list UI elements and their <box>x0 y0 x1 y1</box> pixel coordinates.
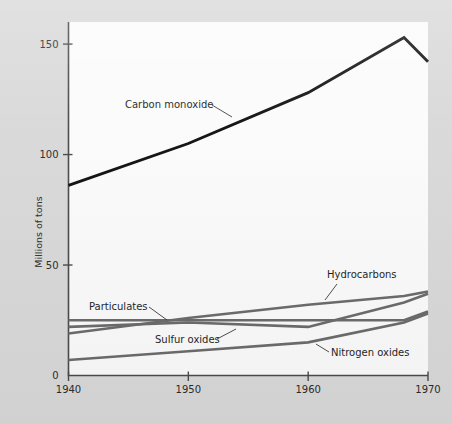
y-tick-label: 0 <box>52 370 58 381</box>
chart-page: 1940195019601970 050100150 Carbon monoxi… <box>0 0 452 424</box>
series-annotation-hydrocarbons: Hydrocarbons <box>327 269 397 280</box>
axis-lines <box>69 22 429 376</box>
line-chart: 1940195019601970 050100150 Carbon monoxi… <box>0 0 452 424</box>
y-tick-label: 100 <box>39 149 58 160</box>
x-axis-tick-labels: 1940195019601970 <box>56 384 441 395</box>
series-line-hydrocarbons <box>69 292 429 334</box>
annotation-leader-line <box>316 344 329 352</box>
y-axis-title: Millions of tons <box>33 196 44 267</box>
series-annotation-carbon-monoxide: Carbon monoxide <box>125 99 213 110</box>
tick-marks-layer <box>63 44 428 381</box>
series-line-carbon-monoxide <box>69 37 429 185</box>
series-line-particulates <box>69 311 429 320</box>
series-annotation-sulfur-oxides: Sulfur oxides <box>155 334 220 345</box>
annotation-leader-line <box>149 307 167 320</box>
x-tick-label: 1970 <box>415 384 440 395</box>
x-tick-label: 1950 <box>176 384 201 395</box>
y-tick-label: 50 <box>46 260 59 271</box>
y-axis-title-label: Millions of tons <box>33 196 44 267</box>
annotation-leader-line <box>217 329 236 339</box>
annotation-leader-lines-layer <box>149 105 337 352</box>
y-tick-label: 150 <box>39 39 58 50</box>
x-tick-label: 1960 <box>295 384 320 395</box>
series-annotation-particulates: Particulates <box>89 301 148 312</box>
series-annotation-nitrogen-oxides: Nitrogen oxides <box>331 347 409 358</box>
annotation-leader-line <box>212 105 232 117</box>
annotation-leader-line <box>325 284 337 300</box>
axes-layer <box>69 22 429 376</box>
x-tick-label: 1940 <box>56 384 81 395</box>
